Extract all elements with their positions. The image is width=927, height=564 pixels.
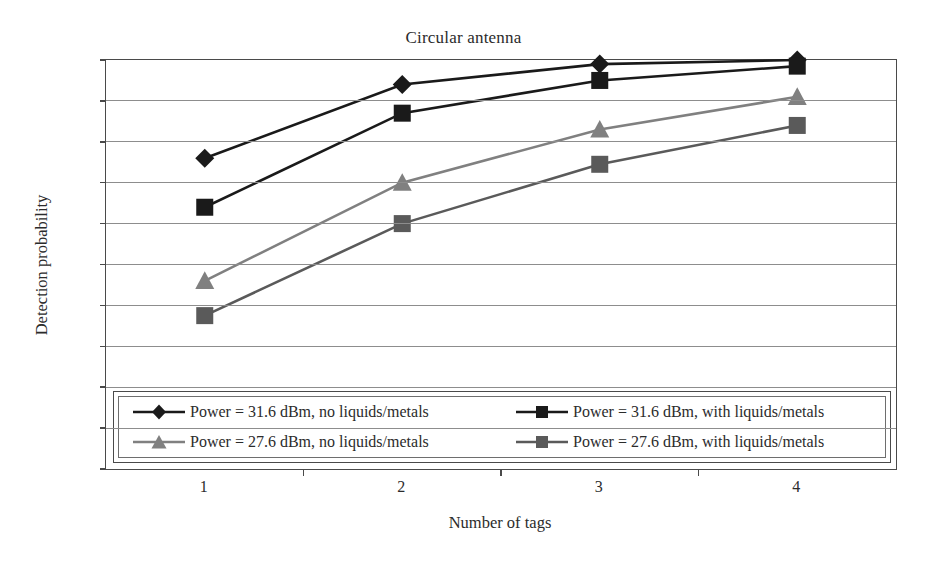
y-axis-tick <box>100 427 106 429</box>
data-point-marker <box>591 72 608 89</box>
x-axis-tick <box>303 469 305 476</box>
y-axis-tick <box>100 386 106 388</box>
data-point-marker <box>393 75 412 94</box>
data-point-marker <box>394 105 411 122</box>
legend-label-series-1: Power = 31.6 dBm, with liquids/metals <box>570 403 824 421</box>
data-point-marker <box>788 87 807 105</box>
x-axis-tick <box>698 469 700 476</box>
legend-label-series-2: Power = 27.6 dBm, no liquids/metals <box>187 433 429 451</box>
y-axis-tick <box>100 100 106 102</box>
gridline <box>106 346 896 347</box>
series-1 <box>196 58 806 216</box>
gridline <box>106 387 896 388</box>
data-point-marker <box>195 149 214 168</box>
series-3 <box>196 117 806 324</box>
data-point-marker <box>196 199 213 216</box>
x-axis-tick <box>500 469 502 476</box>
square-marker-icon <box>514 402 570 422</box>
legend-row: Power = 31.6 dBm, no liquids/metals Powe… <box>119 397 885 427</box>
chart-figure: Circular antenna Detection probability P… <box>0 0 927 564</box>
y-axis-tick <box>100 182 106 184</box>
y-axis-tick <box>100 264 106 266</box>
legend-entry-series-1[interactable]: Power = 31.6 dBm, with liquids/metals <box>502 402 885 422</box>
data-point-marker <box>789 117 806 134</box>
y-axis-tick <box>100 223 106 225</box>
series-line <box>205 66 798 207</box>
data-point-marker <box>591 156 608 173</box>
gridline <box>106 141 896 142</box>
series-2 <box>195 87 807 289</box>
legend-entry-series-2[interactable]: Power = 27.6 dBm, no liquids/metals <box>119 432 502 452</box>
chart-title: Circular antenna <box>0 28 927 48</box>
legend-entry-series-0[interactable]: Power = 31.6 dBm, no liquids/metals <box>119 402 502 422</box>
y-axis-tick <box>100 346 106 348</box>
y-axis-tick <box>100 305 106 307</box>
x-axis-title: Number of tags <box>105 513 895 533</box>
y-axis-tick <box>100 468 106 470</box>
gridline <box>106 428 896 429</box>
data-point-marker <box>590 55 609 74</box>
plot-area: Power = 31.6 dBm, no liquids/metals Powe… <box>105 59 897 470</box>
gridline <box>106 264 896 265</box>
x-axis-tick-label: 4 <box>766 478 826 496</box>
gridline <box>106 182 896 183</box>
gridline <box>106 305 896 306</box>
legend-label-series-3: Power = 27.6 dBm, with liquids/metals <box>570 433 824 451</box>
x-axis-tick-label: 3 <box>569 478 629 496</box>
x-axis-tick-label: 2 <box>371 478 431 496</box>
diamond-marker-icon <box>131 402 187 422</box>
y-axis-tick <box>100 59 106 61</box>
legend-row: Power = 27.6 dBm, no liquids/metals Powe… <box>119 427 885 457</box>
data-point-marker <box>195 271 214 289</box>
y-axis-tick <box>100 141 106 143</box>
triangle-marker-icon <box>131 432 187 452</box>
y-axis-title: Detection probability <box>32 145 52 385</box>
square-marker-icon <box>514 432 570 452</box>
data-point-marker <box>789 58 806 75</box>
series-line <box>205 125 798 315</box>
gridline <box>106 223 896 224</box>
x-axis-tick-label: 1 <box>174 478 234 496</box>
legend-entry-series-3[interactable]: Power = 27.6 dBm, with liquids/metals <box>502 432 885 452</box>
series-0 <box>195 51 807 168</box>
legend-label-series-0: Power = 31.6 dBm, no liquids/metals <box>187 403 429 421</box>
gridline <box>106 100 896 101</box>
data-point-marker <box>196 307 213 324</box>
